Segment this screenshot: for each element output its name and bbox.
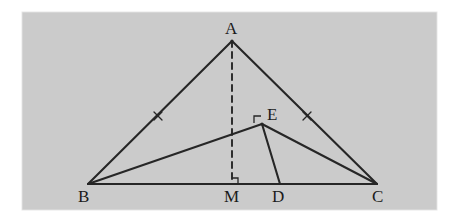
plate-grain [22,12,437,210]
point-label-m: M [224,188,239,205]
point-label-a: A [225,20,237,37]
vertex-dot-a [230,39,233,42]
geometry-figure: ABCMDE [0,0,460,222]
vertex-dot-e [260,122,263,125]
point-label-e: E [267,106,277,123]
point-label-d: D [272,188,284,205]
point-label-b: B [78,188,89,205]
point-label-c: C [372,188,383,205]
